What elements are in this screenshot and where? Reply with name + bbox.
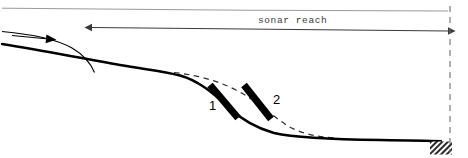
feature-bar-2 [244,85,271,119]
sonar-reach-label: sonar reach [258,15,327,26]
sonar-seafloor-profile-figure: sonar reach 1 2 [0,0,468,158]
feature-1-label: 1 [209,98,216,113]
sonar-reach-dimension-line [92,28,448,32]
water-surface-line [2,8,448,11]
seafloor-profile-line [2,44,441,141]
hatched-basement-block [430,142,452,155]
feature-2-label: 2 [273,92,280,107]
profile-diagram-canvas: sonar reach 1 2 [0,0,468,158]
